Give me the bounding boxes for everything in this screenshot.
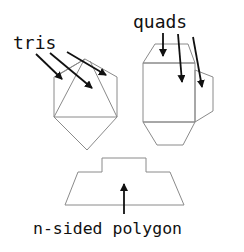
quad-top <box>143 44 195 63</box>
hexagon-outline <box>54 59 117 150</box>
arrow-quads <box>178 34 182 82</box>
label-quads: quads <box>133 13 187 31</box>
label-n-sided-polygon: n-sided polygon <box>33 221 182 238</box>
arrow-tris <box>50 53 92 88</box>
triangulated-hexagon-shape <box>54 59 117 150</box>
quad-center <box>143 63 195 122</box>
label-tris: tris <box>13 34 56 52</box>
quad-mesh-shape <box>143 44 213 145</box>
arrow-tris <box>36 54 62 79</box>
quad-bottom <box>143 122 195 145</box>
quad-right <box>195 70 213 122</box>
